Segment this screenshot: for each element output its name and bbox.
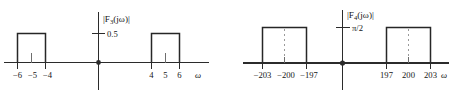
tick-label-200: 200 xyxy=(402,70,415,80)
figure-title-f4: |F4(jω)| xyxy=(347,10,374,21)
x-axis-label-omega: ω xyxy=(441,70,447,80)
tick-label-minus203: −203 xyxy=(254,70,272,80)
level-label-pi-over-2: π/2 xyxy=(352,23,363,33)
tick-label-197: 197 xyxy=(380,70,394,80)
tick-label-minus200: −200 xyxy=(277,70,295,80)
level-label-0point5: 0.5 xyxy=(107,29,118,39)
tick-label-minus197: −197 xyxy=(300,70,318,80)
tick-label-6: 6 xyxy=(177,70,182,80)
figure-f3-magnitude-spectrum: |F3(jω)| 0.5 −6 −5 −4 4 5 6 ω xyxy=(0,0,229,97)
figure-title-f3: |F3(jω)| xyxy=(103,14,130,25)
tick-label-minus4: −4 xyxy=(43,70,53,80)
origin-marker xyxy=(340,60,345,65)
tick-label-minus6: −6 xyxy=(13,70,23,80)
tick-label-4: 4 xyxy=(149,70,154,80)
figure-f4-magnitude-spectrum: |F4(jω)| π/2 −203 −200 −197 197 200 203 … xyxy=(229,0,458,97)
origin-marker xyxy=(96,60,101,65)
tick-label-203: 203 xyxy=(424,70,437,80)
tick-label-minus5: −5 xyxy=(28,70,37,80)
tick-label-5: 5 xyxy=(163,70,167,80)
x-axis-label-omega: ω xyxy=(195,70,201,80)
